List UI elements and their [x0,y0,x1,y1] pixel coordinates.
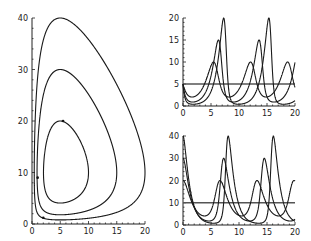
y-tick-label: 40 [18,14,28,23]
x-tick-label: 15 [262,109,272,118]
x-tick-label: 10 [234,109,244,118]
x-tick-label: 5 [208,109,213,118]
y-tick-label: 0 [23,220,28,229]
x-tick-label: 10 [234,228,244,237]
y-tick-label: 10 [18,169,28,178]
x-tick-label: 5 [208,228,213,237]
x-tick-label: 20 [140,227,150,236]
y-tick-label: 5 [174,80,179,89]
y-tick-label: 30 [169,154,179,163]
predator-curve-0 [183,181,295,216]
x-tick-label: 20 [290,228,300,237]
initial-point-marker [42,217,45,220]
y-tick-label: 10 [169,58,179,67]
x-tick-label: 20 [290,109,300,118]
predator-curve-1 [183,158,295,221]
x-tick-label: 0 [180,109,185,118]
y-tick-label: 30 [18,66,28,75]
y-tick-label: 10 [169,199,179,208]
predator-time-series-plot: 05101520010203040 [169,132,300,237]
x-tick-label: 0 [29,227,34,236]
x-tick-label: 10 [83,227,93,236]
y-tick-label: 0 [174,221,179,230]
y-tick-label: 20 [169,14,179,23]
initial-point-marker [62,120,65,123]
figure: 05101520010203040 0510152005101520 05101… [0,0,311,241]
prey-curve-0 [183,62,295,97]
prey-time-series-plot: 0510152005101520 [169,14,300,118]
initial-point-marker [36,176,39,179]
y-tick-label: 0 [174,102,179,111]
phase-orbit-orbit-inner [43,121,88,203]
y-tick-label: 15 [169,36,179,45]
x-tick-label: 0 [180,228,185,237]
x-tick-label: 15 [112,227,122,236]
y-tick-label: 20 [18,117,28,126]
phase-orbit-orbit-middle [37,70,117,215]
predator-curve-2 [183,136,295,223]
prey-curve-2 [183,18,295,104]
x-tick-label: 5 [58,227,63,236]
phase-portrait-plot: 05101520010203040 [18,14,150,236]
y-tick-label: 20 [169,177,179,186]
phase-orbit-orbit-outer [34,18,145,220]
x-tick-label: 15 [262,228,272,237]
y-tick-label: 40 [169,132,179,141]
